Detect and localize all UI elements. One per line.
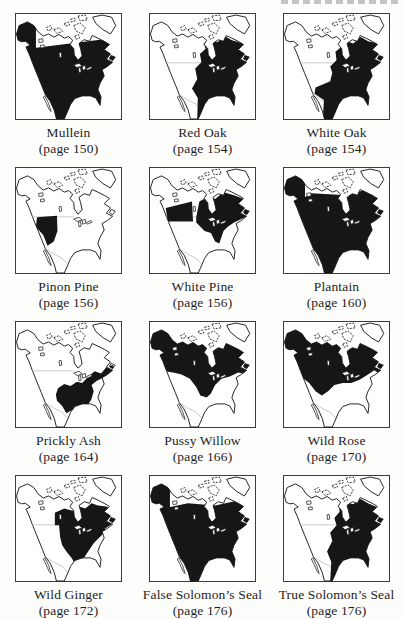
- map-caption: Wild Rose (page 170): [307, 433, 367, 465]
- range-map: [150, 476, 255, 581]
- range-map: [16, 476, 121, 581]
- page-number: (page 172): [34, 603, 103, 619]
- map-frame: [15, 167, 122, 274]
- page-number: (page 150): [39, 141, 99, 157]
- plant-name: Wild Ginger: [34, 587, 103, 603]
- page-number: (page 154): [173, 141, 233, 157]
- map-caption: Prickly Ash (page 164): [36, 433, 101, 465]
- map-frame: [149, 321, 256, 428]
- map-frame: [149, 475, 256, 582]
- page-number: (page 154): [306, 141, 366, 157]
- range-map-cell: Pussy Willow (page 166): [149, 321, 256, 465]
- book-page: Mullein (page 150) Red Oak (page 154): [0, 0, 403, 619]
- map-caption: White Pine (page 156): [172, 279, 234, 311]
- map-frame: [15, 13, 122, 120]
- map-caption: Wild Ginger (page 172): [34, 587, 103, 619]
- range-map: [150, 168, 255, 273]
- range-map-cell: Wild Ginger (page 172): [15, 475, 122, 619]
- page-number: (page 160): [307, 295, 367, 311]
- cropped-page-header-fragment: [281, 0, 399, 4]
- map-caption: Plantain (page 160): [307, 279, 367, 311]
- plant-name: White Oak: [306, 125, 366, 141]
- plant-name: Wild Rose: [307, 433, 367, 449]
- map-caption: Red Oak (page 154): [173, 125, 233, 157]
- map-caption: Pinon Pine (page 156): [38, 279, 98, 311]
- plant-name: Mullein: [39, 125, 99, 141]
- map-frame: [283, 321, 390, 428]
- map-caption: False Solomon’s Seal (page 176): [143, 587, 262, 619]
- range-map: [16, 322, 121, 427]
- range-map: [16, 168, 121, 273]
- plant-name: Plantain: [307, 279, 367, 295]
- range-map-cell: True Solomon’s Seal (page 176): [283, 475, 390, 619]
- range-map-cell: Plantain (page 160): [283, 167, 390, 311]
- range-map-cell: Mullein (page 150): [15, 13, 122, 157]
- plant-name: Prickly Ash: [36, 433, 101, 449]
- plant-name: Pinon Pine: [38, 279, 98, 295]
- range-map: [150, 14, 255, 119]
- range-map: [284, 476, 389, 581]
- maps-grid: Mullein (page 150) Red Oak (page 154): [15, 13, 390, 619]
- range-map-cell: Prickly Ash (page 164): [15, 321, 122, 465]
- page-number: (page 170): [307, 449, 367, 465]
- page-number: (page 156): [38, 295, 98, 311]
- plant-name: Red Oak: [173, 125, 233, 141]
- range-map-cell: Wild Rose (page 170): [283, 321, 390, 465]
- range-map: [150, 322, 255, 427]
- map-frame: [283, 13, 390, 120]
- map-frame: [283, 167, 390, 274]
- range-map-cell: Pinon Pine (page 156): [15, 167, 122, 311]
- plant-name: Pussy Willow: [164, 433, 240, 449]
- plant-name: False Solomon’s Seal: [143, 587, 262, 603]
- map-caption: Pussy Willow (page 166): [164, 433, 240, 465]
- page-number: (page 156): [172, 295, 234, 311]
- page-number: (page 164): [36, 449, 101, 465]
- range-map: [16, 14, 121, 119]
- map-frame: [283, 475, 390, 582]
- range-map: [284, 14, 389, 119]
- page-number: (page 176): [143, 603, 262, 619]
- range-map-cell: False Solomon’s Seal (page 176): [149, 475, 256, 619]
- range-map-cell: Red Oak (page 154): [149, 13, 256, 157]
- page-number: (page 166): [164, 449, 240, 465]
- map-frame: [15, 475, 122, 582]
- range-map: [284, 168, 389, 273]
- range-map: [284, 322, 389, 427]
- plant-name: White Pine: [172, 279, 234, 295]
- map-frame: [15, 321, 122, 428]
- page-number: (page 176): [279, 603, 395, 619]
- range-map-cell: White Pine (page 156): [149, 167, 256, 311]
- map-caption: White Oak (page 154): [306, 125, 366, 157]
- map-caption: Mullein (page 150): [39, 125, 99, 157]
- plant-name: True Solomon’s Seal: [279, 587, 395, 603]
- map-frame: [149, 13, 256, 120]
- map-frame: [149, 167, 256, 274]
- range-map-cell: White Oak (page 154): [283, 13, 390, 157]
- map-caption: True Solomon’s Seal (page 176): [279, 587, 395, 619]
